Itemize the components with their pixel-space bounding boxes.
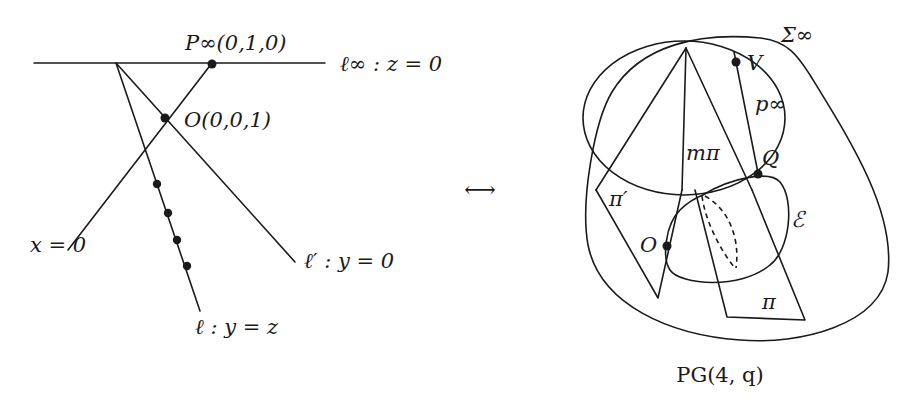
point-origin	[161, 114, 170, 123]
point-q	[754, 170, 763, 179]
line-l-prime	[116, 63, 295, 262]
cone-left-edge	[596, 48, 686, 190]
label-origin-right: O	[640, 233, 657, 257]
label-ellipsoid: ℰ	[791, 207, 807, 232]
point-on-l	[153, 180, 161, 188]
m-pi-line	[682, 48, 686, 190]
cone-right-edge	[686, 48, 752, 190]
label-x-equals-0: x = 0	[30, 233, 86, 257]
left-panel: P∞(0,1,0) O(0,0,1) ℓ∞ : z = 0 x = 0 ℓ′ :…	[30, 31, 442, 339]
label-l-prime: ℓ′ : y = 0	[304, 249, 394, 273]
label-pi: π	[761, 290, 777, 314]
point-on-l	[164, 209, 172, 217]
point-on-l	[173, 236, 181, 244]
correspondence-arrow-icon: ⟷	[464, 177, 496, 202]
right-panel: Σ∞ V p∞ mπ Q π′ ℰ O π PG(4, q)	[583, 23, 889, 387]
label-m-pi: mπ	[686, 141, 721, 165]
label-line-at-infinity: ℓ∞ : z = 0	[340, 52, 442, 76]
dashed-conic	[705, 196, 737, 268]
label-space: PG(4, q)	[676, 363, 763, 387]
point-on-l	[183, 262, 191, 270]
label-origin: O(0,0,1)	[184, 108, 271, 132]
point-p-infinity	[208, 60, 217, 69]
line-x-equals-0	[68, 63, 212, 250]
label-l: ℓ : y = z	[195, 315, 279, 339]
point-v	[732, 58, 741, 67]
label-p-infinity: P∞(0,1,0)	[184, 31, 286, 55]
label-q: Q	[762, 146, 779, 170]
label-sigma-infinity: Σ∞	[780, 23, 813, 47]
ellipsoid-e	[666, 176, 789, 282]
point-origin-right	[663, 242, 672, 251]
label-pi-prime: π′	[608, 187, 628, 211]
outer-space-boundary	[586, 37, 889, 341]
label-v: V	[747, 51, 764, 75]
label-p-infinity-right: p∞	[755, 92, 786, 116]
dashed-conic	[702, 196, 735, 268]
diagram-canvas: P∞(0,1,0) O(0,0,1) ℓ∞ : z = 0 x = 0 ℓ′ :…	[0, 0, 921, 396]
